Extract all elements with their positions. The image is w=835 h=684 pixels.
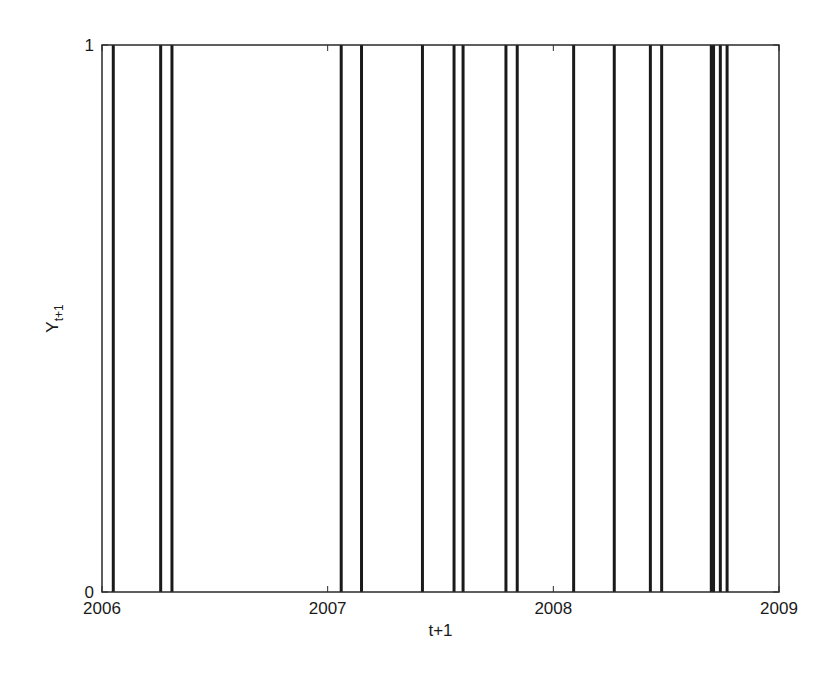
x-tick-label: 2009 xyxy=(760,599,798,618)
y-tick-label: 0 xyxy=(85,583,94,602)
y-axis-ticks: 01 xyxy=(85,36,779,602)
y-axis-label-subscript: t+1 xyxy=(52,304,66,321)
y-tick-label: 1 xyxy=(85,36,94,55)
event-lines xyxy=(113,45,727,592)
y-axis-label-main: Y xyxy=(43,321,62,332)
x-tick-label: 2008 xyxy=(534,599,572,618)
x-axis-ticks: 2006200720082009 xyxy=(83,45,798,618)
plot-axes-box xyxy=(102,45,779,592)
y-axis-label: Yt+1 xyxy=(43,304,66,333)
x-tick-label: 2007 xyxy=(309,599,347,618)
chart-figure: 2006200720082009 01 t+1 Yt+1 xyxy=(0,0,835,684)
chart-canvas: 2006200720082009 01 t+1 Yt+1 xyxy=(0,0,835,684)
x-axis-label: t+1 xyxy=(428,621,452,640)
